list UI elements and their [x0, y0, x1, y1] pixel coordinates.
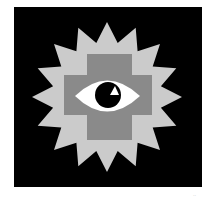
eye-emblem-icon	[0, 0, 211, 201]
corner-mark: ··	[193, 192, 196, 198]
